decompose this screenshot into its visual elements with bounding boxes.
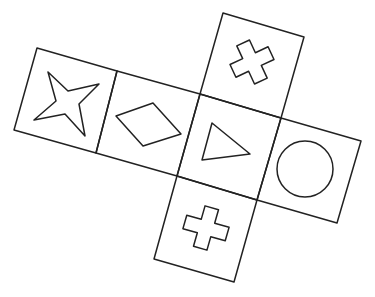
face-triangle-border — [177, 94, 281, 200]
face-star — [14, 48, 117, 153]
cube-net-diagram — [0, 0, 375, 297]
cross-icon — [179, 202, 233, 255]
circle-icon — [277, 141, 333, 197]
rhombus-icon — [116, 103, 181, 146]
face-cross-top — [200, 13, 304, 118]
face-cross-top-border — [200, 13, 304, 118]
cube-net-canvas — [0, 0, 375, 297]
triangle-icon — [202, 123, 250, 160]
face-cross-bottom-border — [154, 176, 257, 282]
face-circle-border — [257, 118, 361, 223]
face-triangle — [177, 94, 281, 200]
face-circle — [257, 118, 361, 223]
face-cross-bottom — [154, 176, 257, 282]
face-diamond-border — [96, 71, 200, 176]
four-pointed-star-icon — [34, 72, 99, 136]
cross-icon — [224, 34, 280, 90]
face-star-border — [14, 48, 117, 153]
face-diamond — [96, 71, 200, 176]
